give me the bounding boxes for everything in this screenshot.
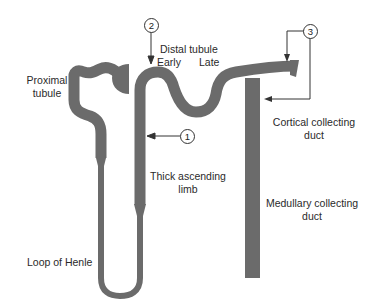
label-medullary-line1: Medullary collecting [260,197,364,210]
label-proximal-tubule: Proximal tubule [22,74,72,100]
nephron-diagram: 2 1 3 Proximal tubule Distal tubule Earl… [0,0,368,301]
label-cortical-line1: Cortical collecting [264,116,364,129]
label-tal-line2: limb [148,183,228,196]
descending-limb-taper [96,158,106,166]
distal-tubule-end [290,60,299,77]
label-thick-ascending-limb: Thick ascending limb [148,170,228,196]
marker-3: 3 [303,24,318,39]
label-early: Early [157,56,181,69]
ascending-limb-taper [134,204,146,216]
label-proximal-line2: tubule [22,87,72,100]
marker-2: 2 [144,18,159,33]
marker-1-arrow [147,133,180,139]
label-cortical-collecting-duct: Cortical collecting duct [264,116,364,142]
collecting-duct-shape [245,78,260,278]
label-loop-of-henle: Loop of Henle [27,256,92,269]
marker-3-arrowhead-side [264,96,272,102]
label-distal-tubule: Distal tubule [160,43,218,56]
marker-1: 1 [180,129,195,144]
label-medullary-collecting-duct: Medullary collecting duct [260,197,364,223]
proximal-tubule-shape [74,68,119,158]
marker-2-arrow [148,32,154,64]
loop-of-henle-shape [101,166,140,296]
label-late: Late [199,56,219,69]
label-tal-line1: Thick ascending [148,170,228,183]
label-medullary-line2: duct [260,210,364,223]
label-cortical-line2: duct [264,129,364,142]
label-proximal-line1: Proximal [22,74,72,87]
